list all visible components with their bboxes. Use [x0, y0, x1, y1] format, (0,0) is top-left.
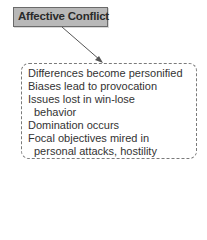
list-item: Biases lead to provocation: [28, 80, 183, 93]
list-item: Focal objectives mired in: [28, 132, 183, 145]
list-item: personal attacks, hostility: [28, 145, 183, 158]
list-item: Domination occurs: [28, 119, 183, 132]
characteristics-list: Differences become personified Biases le…: [28, 67, 183, 158]
conflict-characteristics-box: Differences become personified Biases le…: [21, 63, 197, 159]
list-item: Issues lost in win-lose: [28, 93, 183, 106]
list-item: Differences become personified: [28, 67, 183, 80]
list-item: behavior: [28, 106, 183, 119]
